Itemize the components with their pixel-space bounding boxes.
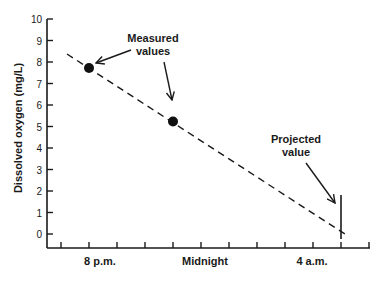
arrow-icon: [306, 163, 335, 203]
y-axis-label: Dissolved oxygen (mg/L): [12, 63, 24, 194]
x-axis: 8 p.m. Midnight 4 a.m.: [47, 242, 370, 267]
y-tick-label: 9: [36, 36, 42, 47]
x-tick-label-8pm: 8 p.m.: [84, 255, 116, 267]
y-tick-label: 2: [36, 186, 42, 197]
y-tick-label: 4: [36, 143, 42, 154]
y-tick-label: 0: [36, 229, 42, 240]
y-tick-label: 1: [36, 208, 42, 219]
measured-point-11pm: [168, 117, 178, 127]
measured-point-8pm: [84, 63, 94, 73]
projected-label-line1: Projected: [271, 133, 321, 145]
measured-label-line1: Measured: [127, 32, 178, 44]
measured-label-line2: values: [136, 45, 170, 57]
arrow-icon: [96, 50, 131, 63]
y-tick-label: 3: [36, 165, 42, 176]
chart: 0 1 2 3 4 5 6 7 8 9 10 Dissolved oxygen …: [0, 0, 384, 284]
y-tick-label: 10: [31, 14, 43, 25]
y-axis: 0 1 2 3 4 5 6 7 8 9 10 Dissolved oxygen …: [12, 14, 53, 248]
trend-dashed-line: [67, 54, 348, 236]
x-tick-label-4am: 4 a.m.: [296, 255, 327, 267]
y-tick-label: 6: [36, 100, 42, 111]
y-tick-label: 5: [36, 122, 42, 133]
measured-values-annotation: Measured values: [96, 32, 179, 100]
x-tick-label-midnight: Midnight: [182, 255, 228, 267]
projected-label-line2: value: [282, 146, 310, 158]
arrow-icon: [164, 62, 172, 100]
y-tick-label: 8: [36, 57, 42, 68]
y-tick-label: 7: [36, 79, 42, 90]
